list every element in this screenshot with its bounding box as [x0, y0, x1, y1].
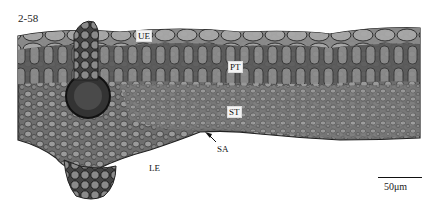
label-upper-epidermis: UE	[136, 30, 152, 42]
scale-bar-label: 50μm	[384, 181, 407, 192]
label-lower-epidermis: LE	[149, 163, 160, 173]
leaf-section-image	[0, 0, 438, 213]
label-palisade-tissue: PT	[228, 61, 243, 73]
scale-bar	[378, 177, 422, 178]
micrograph-figure: 2-58	[0, 0, 438, 213]
label-stomatal-apparatus: SA	[217, 144, 229, 154]
label-spongy-tissue: ST	[227, 106, 242, 118]
